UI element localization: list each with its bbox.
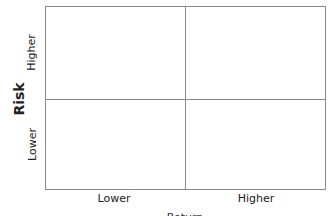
horizontal-divider bbox=[45, 99, 326, 100]
y-label-lower: Lower bbox=[26, 128, 39, 161]
y-axis-title: Risk bbox=[11, 82, 27, 115]
x-label-higher: Higher bbox=[238, 192, 275, 205]
y-label-higher: Higher bbox=[25, 34, 38, 71]
x-axis-title: Return bbox=[167, 211, 204, 216]
vertical-divider bbox=[185, 6, 186, 190]
x-label-lower: Lower bbox=[98, 192, 131, 205]
